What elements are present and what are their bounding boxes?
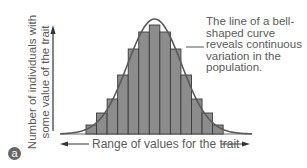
annotation-line-3: reveals continuous [206, 39, 302, 51]
annotation-line-1: The line of a bell- [206, 16, 302, 28]
histogram-bar [170, 49, 181, 134]
histogram-bar [107, 99, 118, 134]
arrow-right-icon [242, 142, 250, 147]
y-axis-label-line-2: some value of the trait [38, 12, 51, 152]
y-axis-label-line-1: Number of individuals with [26, 12, 39, 152]
x-axis-label: Range of values for the trait [92, 137, 239, 151]
annotation-line-5: population. [206, 62, 302, 74]
panel-label-badge: a [8, 147, 21, 160]
histogram-bar [149, 25, 160, 134]
curve-annotation: The line of a bell- shaped curve reveals… [206, 16, 302, 74]
histogram-bar [192, 99, 203, 134]
histogram-bar [139, 32, 150, 134]
arrow-left-icon [60, 142, 68, 147]
histogram-bars [86, 25, 223, 134]
y-axis-arrowhead-icon [51, 25, 56, 34]
histogram-bar [128, 49, 139, 134]
histogram-bar [160, 32, 171, 134]
